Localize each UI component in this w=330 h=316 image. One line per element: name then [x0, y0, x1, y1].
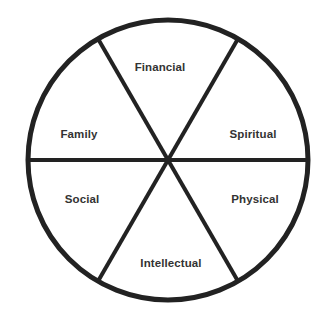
sector-label-social: Social [65, 194, 99, 206]
wheel-of-life-diagram: Financial Spiritual Physical Intellectua… [0, 0, 330, 316]
sector-label-intellectual: Intellectual [140, 258, 201, 270]
sector-label-spiritual: Spiritual [230, 129, 277, 141]
sector-label-physical: Physical [231, 194, 278, 206]
sector-label-financial: Financial [135, 62, 186, 74]
sector-label-family: Family [60, 129, 97, 141]
